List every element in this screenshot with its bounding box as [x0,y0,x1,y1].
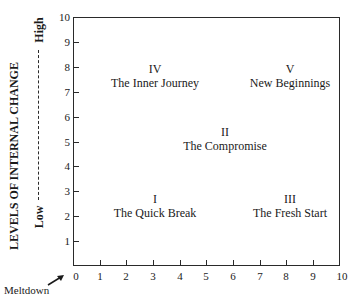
quadrant-ii: II The Compromise [160,125,290,153]
x-tick [180,260,181,266]
x-tick [206,260,207,266]
quadrant-label: New Beginnings [250,76,330,90]
y-tick-label: 2 [56,210,70,222]
quadrant-iv: IV The Inner Journey [90,62,220,90]
x-tick-label: 0 [66,270,86,282]
y-scale-dashed-line [38,50,39,200]
y-tick [73,42,79,43]
x-tick-label: 8 [276,270,296,282]
x-tick-label: 7 [250,270,270,282]
y-scale-low-label: Low [32,202,46,232]
meltdown-label: Meltdown [4,284,49,296]
quadrant-i: I The Quick Break [90,192,220,220]
y-tick [73,67,79,68]
quadrant-numeral: III [225,192,355,206]
quadrant-v: V New Beginnings [225,62,355,90]
y-tick-label: 1 [56,235,70,247]
quadrant-numeral: IV [90,62,220,76]
y-scale-high-label: High [32,15,46,45]
y-tick [73,166,79,167]
y-tick [73,142,79,143]
y-tick [73,92,79,93]
x-tick [126,260,127,266]
arrow-icon [46,273,66,287]
quadrant-label: The Compromise [183,139,267,153]
quadrant-iii: III The Fresh Start [225,192,355,220]
quadrant-numeral: II [160,125,290,139]
x-tick [286,260,287,266]
quadrant-label: The Inner Journey [111,76,199,90]
y-tick-label: 4 [56,160,70,172]
quadrant-numeral: V [225,62,355,76]
x-tick [153,260,154,266]
y-tick-label: 8 [56,61,70,73]
x-tick-label: 4 [170,270,190,282]
x-tick-label: 3 [143,270,163,282]
x-tick [100,260,101,266]
y-tick-label: 5 [56,136,70,148]
y-axis-title: LEVELS OF INTERNAL CHANGE [7,42,21,270]
quadrant-numeral: I [90,192,220,206]
y-tick-label: 9 [56,36,70,48]
y-tick [73,216,79,217]
quadrant-label: The Quick Break [114,206,197,220]
y-tick [73,241,79,242]
x-tick-label: 5 [196,270,216,282]
y-tick [73,117,79,118]
x-tick-label: 9 [303,270,323,282]
x-tick-label: 10 [332,270,352,282]
y-tick [73,191,79,192]
quadrant-label: The Fresh Start [253,206,327,220]
x-tick [233,260,234,266]
y-tick-label: 10 [56,11,70,23]
x-tick-label: 2 [116,270,136,282]
y-tick-label: 7 [56,86,70,98]
y-tick-label: 6 [56,111,70,123]
x-tick-label: 1 [90,270,110,282]
x-tick [260,260,261,266]
x-tick [313,260,314,266]
y-tick-label: 3 [56,185,70,197]
x-tick-label: 6 [223,270,243,282]
